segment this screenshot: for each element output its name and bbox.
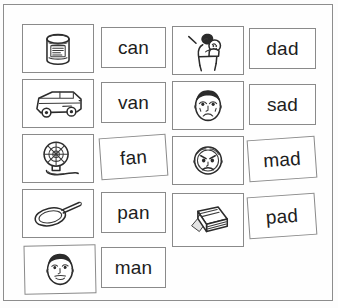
picture-card-pad[interactable] <box>172 193 244 247</box>
word-card-van[interactable]: van <box>101 82 166 123</box>
picture-card-sad[interactable] <box>172 81 244 130</box>
picture-card-dad[interactable] <box>172 26 244 75</box>
word-label-pad: pad <box>265 205 299 226</box>
picture-card-van[interactable] <box>22 79 94 128</box>
frying-pan-icon <box>23 190 93 237</box>
word-card-pad[interactable]: pad <box>247 193 318 240</box>
word-card-pan[interactable]: pan <box>101 192 166 233</box>
word-card-sad[interactable]: sad <box>249 84 316 125</box>
picture-card-man[interactable] <box>23 244 96 294</box>
word-label-van: van <box>118 93 149 112</box>
word-label-can: can <box>118 38 149 57</box>
fan-icon <box>23 135 93 182</box>
word-label-pan: pan <box>117 203 149 222</box>
word-label-fan: fan <box>119 147 147 168</box>
word-label-dad: dad <box>266 39 298 58</box>
sad-face-icon <box>173 82 243 129</box>
word-label-mad: mad <box>263 148 302 170</box>
writing-pad-icon <box>173 194 243 246</box>
man-face-icon <box>25 245 96 293</box>
can-icon <box>23 25 93 72</box>
picture-card-pan[interactable] <box>22 189 94 238</box>
picture-card-fan[interactable] <box>22 134 94 183</box>
word-label-sad: sad <box>267 95 298 114</box>
worksheet-frame: can van <box>3 4 333 301</box>
van-icon <box>23 80 93 127</box>
word-card-can[interactable]: can <box>101 27 166 68</box>
word-card-mad[interactable]: mad <box>247 136 318 183</box>
word-card-dad[interactable]: dad <box>249 28 316 69</box>
word-card-man[interactable]: man <box>101 247 166 288</box>
worksheet: can van <box>0 0 338 308</box>
dad-holding-baby-icon <box>173 27 243 74</box>
picture-card-can[interactable] <box>22 24 94 73</box>
word-label-man: man <box>115 258 153 277</box>
picture-card-mad[interactable] <box>172 136 244 185</box>
mad-face-icon <box>173 137 243 184</box>
word-card-fan[interactable]: fan <box>99 134 169 181</box>
